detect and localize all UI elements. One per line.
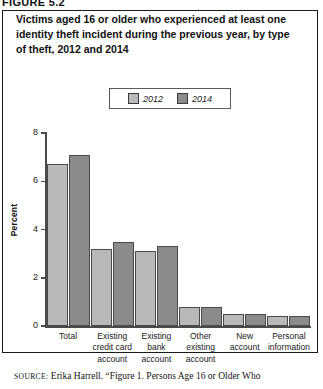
figure-number: FIGURE 5.2: [2, 0, 65, 8]
legend-item-2012: 2012: [128, 93, 163, 104]
chart-legend: 2012 2014: [109, 88, 231, 109]
source-prefix: SOURCE:: [14, 372, 48, 381]
legend-swatch-2014: [177, 93, 188, 104]
legend-swatch-2012: [128, 93, 139, 104]
legend-label-2014: 2014: [192, 94, 212, 104]
source-text: Erika Harrell. “Figure 1. Persons Age 16…: [51, 371, 261, 381]
legend-label-2012: 2012: [143, 94, 163, 104]
legend-item-2014: 2014: [177, 93, 212, 104]
figure-frame: [2, 10, 318, 353]
source-note: SOURCE: Erika Harrell. “Figure 1. Person…: [14, 370, 314, 382]
figure-title: Victims aged 16 or older who experienced…: [16, 12, 298, 58]
